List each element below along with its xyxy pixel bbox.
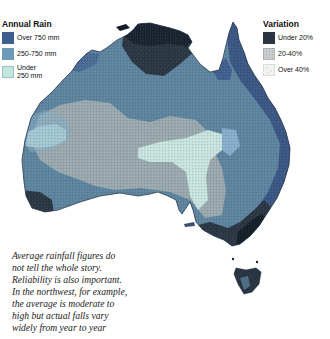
legend-item-over-750: Over 750 mm bbox=[2, 32, 59, 44]
caption-line: Average rainfall figures do bbox=[12, 250, 182, 262]
annual-rain-legend: Annual Rain Over 750 mm 250-750 mm Under… bbox=[2, 19, 59, 83]
legend-item-250-750: 250-750 mm bbox=[2, 48, 59, 60]
kangaroo-island bbox=[184, 222, 195, 227]
legend-label: 20-40% bbox=[278, 50, 302, 58]
legend-label: Under 250 mm bbox=[17, 64, 42, 79]
legend-label: 250-750 mm bbox=[17, 50, 56, 58]
caption-line: Reliability is also important. bbox=[12, 274, 182, 286]
legend-item-over-40: Over 40% bbox=[263, 64, 313, 76]
over-750-swatch bbox=[2, 32, 14, 44]
250-750-swatch bbox=[2, 48, 14, 60]
legend-item-20-40: 20-40% bbox=[263, 48, 313, 60]
legend-label: Over 750 mm bbox=[17, 34, 59, 42]
annual-rain-legend-title: Annual Rain bbox=[2, 19, 59, 29]
caption-line: In the northwest, for example, bbox=[12, 286, 182, 298]
caption-line: widely from year to year bbox=[12, 322, 182, 334]
caption-line: the average is moderate to bbox=[12, 298, 182, 310]
legend-item-under-250: Under 250 mm bbox=[2, 64, 59, 79]
variation-legend: Variation Under 20% 20-40% Over 40% bbox=[263, 19, 313, 80]
legend-label: Over 40% bbox=[278, 66, 309, 74]
melville-island bbox=[116, 24, 130, 31]
under-20-swatch bbox=[263, 32, 275, 44]
variation-legend-title: Variation bbox=[263, 19, 313, 29]
legend-label: Under 20% bbox=[278, 34, 313, 42]
caption-line: not tell the whole story. bbox=[12, 262, 182, 274]
map-caption: Average rainfall figures do not tell the… bbox=[12, 250, 182, 334]
over-40-swatch bbox=[263, 64, 275, 76]
groote-island bbox=[185, 45, 188, 48]
20-40-swatch bbox=[263, 48, 275, 60]
under-250-swatch bbox=[2, 66, 14, 78]
legend-item-under-20: Under 20% bbox=[263, 32, 313, 44]
caption-line: high but actual falls vary bbox=[12, 310, 182, 322]
